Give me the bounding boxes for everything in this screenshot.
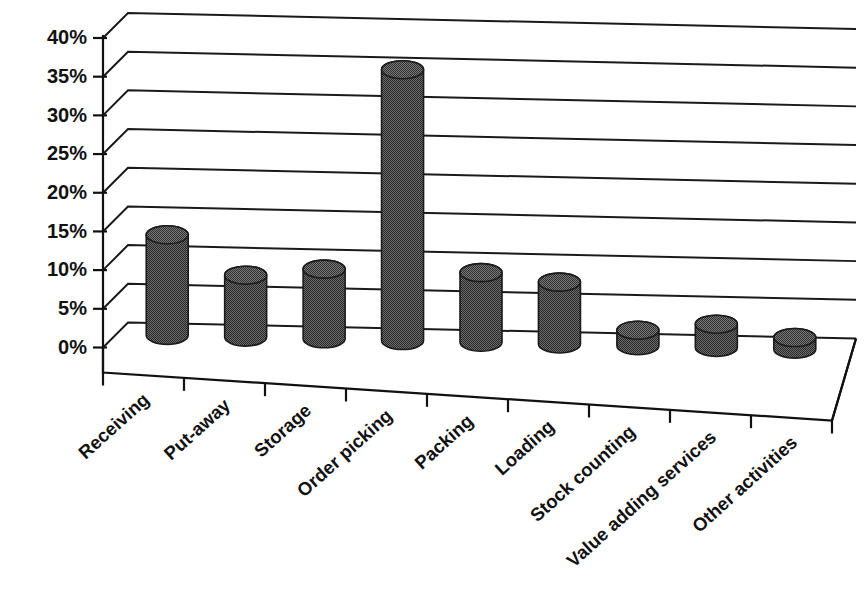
y-axis-label: 40% [47,26,87,48]
bar-top-packing [460,264,502,282]
y-axis-label: 5% [58,297,87,319]
bar-top-put-away [225,266,267,284]
y-axis-label: 20% [47,181,87,203]
y-axis-label: 35% [47,65,87,87]
chart-container: 0%5%10%15%20%25%30%35%40% ReceivingPut-a… [0,0,867,613]
bar-top-other-activities [774,329,816,347]
bar-top-storage [303,260,345,278]
y-axis-label: 30% [47,104,87,126]
bar-top-receiving [146,226,188,244]
bar-top-loading [538,273,580,291]
bar-top-stock-counting [617,321,659,339]
y-axis-label: 15% [47,220,87,242]
y-axis-label: 0% [58,336,87,358]
bar-order-picking [382,61,424,350]
chart-background [0,0,867,613]
y-axis-label: 25% [47,142,87,164]
y-axis-label: 10% [47,258,87,280]
bar-chart: 0%5%10%15%20%25%30%35%40% ReceivingPut-a… [0,0,867,613]
bar-top-value-adding-services [695,315,737,333]
bar-top-order-picking [382,61,424,79]
